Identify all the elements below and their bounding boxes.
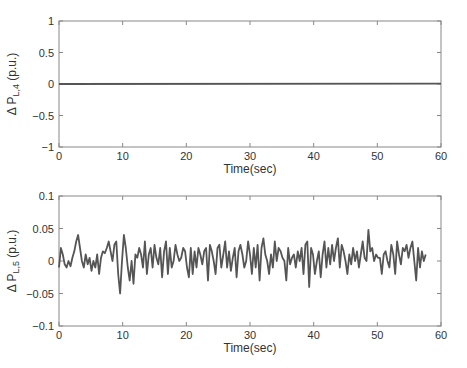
- data-line: [59, 230, 426, 294]
- x-tick-label: 50: [371, 329, 383, 341]
- y-tick-label: −0.5: [32, 110, 54, 122]
- x-tick-label: 50: [371, 150, 383, 162]
- x-tick-label: 0: [56, 150, 62, 162]
- plot-delta-pl5: 01020304050600.10.050−0.05−0.1Time(sec)Δ…: [5, 190, 447, 355]
- plot-delta-pl4: 010203040506010.50−0.5−1Time(sec)Δ PL,4 …: [5, 15, 447, 176]
- x-tick-label: 20: [180, 329, 192, 341]
- y-tick-label: 0.1: [39, 190, 54, 202]
- y-tick-label: 0.05: [33, 223, 54, 235]
- x-axis-label: Time(sec): [224, 162, 277, 176]
- y-axis-label: Δ PL,5 (p.u.): [5, 230, 21, 293]
- x-tick-label: 60: [435, 329, 447, 341]
- y-tick-label: 0: [48, 78, 54, 90]
- y-tick-label: −0.1: [32, 320, 54, 332]
- x-tick-label: 10: [117, 329, 129, 341]
- x-tick-label: 10: [117, 150, 129, 162]
- x-tick-label: 0: [56, 329, 62, 341]
- y-tick-label: −1: [41, 141, 54, 153]
- y-tick-label: 0.5: [39, 47, 54, 59]
- x-tick-label: 60: [435, 150, 447, 162]
- y-tick-label: −0.05: [26, 288, 54, 300]
- x-tick-label: 30: [244, 329, 256, 341]
- x-axis-label: Time(sec): [224, 341, 277, 355]
- x-tick-label: 30: [244, 150, 256, 162]
- y-tick-label: 1: [48, 15, 54, 27]
- x-tick-label: 40: [308, 150, 320, 162]
- y-tick-label: 0: [48, 255, 54, 267]
- x-tick-label: 40: [308, 329, 320, 341]
- y-axis-label: Δ PL,4 (p.u.): [5, 53, 21, 116]
- x-tick-label: 20: [180, 150, 192, 162]
- figure: 010203040506010.50−0.5−1Time(sec)Δ PL,4 …: [0, 0, 467, 368]
